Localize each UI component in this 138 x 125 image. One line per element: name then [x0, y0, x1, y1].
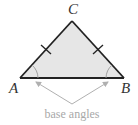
- arrow-to-angle-b: [72, 82, 108, 104]
- arrow-to-angle-a: [36, 82, 72, 104]
- isosceles-triangle-diagram: C A B base angles: [0, 0, 138, 125]
- vertex-label-a: A: [8, 80, 19, 96]
- vertex-label-b: B: [121, 80, 130, 96]
- diagram-svg: C A B base angles: [0, 0, 138, 125]
- caption-base-angles: base angles: [45, 107, 100, 121]
- vertex-label-c: C: [68, 1, 79, 17]
